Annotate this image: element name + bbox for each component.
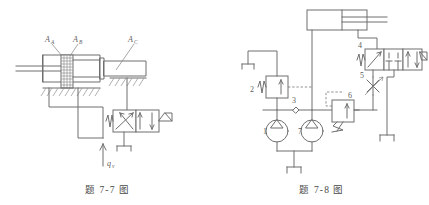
label-flow-subscript: v: [112, 163, 115, 169]
label-unloading-valve-6: 6: [348, 91, 352, 100]
label-flow-qv: q v: [107, 159, 115, 169]
label-area-a: A A: [44, 35, 55, 45]
supply-flow-arrow: [100, 144, 106, 166]
label-directional-valve-4: 4: [358, 41, 362, 50]
piston-rod: [16, 66, 62, 71]
directional-valve-4: [365, 49, 422, 70]
pump-1: [266, 110, 288, 151]
figure-page: A A A B A C q v 题 7-7 图: [0, 0, 429, 205]
figure-7-7-caption: 题 7-7 图: [0, 182, 215, 196]
figure-7-8: 1 2 3 4 5 6 7 题 7-8 图: [215, 0, 429, 205]
label-relief-valve-2: 2: [250, 85, 254, 94]
label-flow-text: q: [107, 159, 111, 168]
hydraulic-cylinder: [307, 10, 387, 30]
figure-7-8-caption: 题 7-8 图: [215, 182, 429, 196]
valve-lever: [159, 113, 172, 121]
valve-tank-line: [117, 132, 131, 151]
relief-valve-2: [258, 76, 312, 98]
figure-7-7: A A A B A C q v 题 7-7 图: [0, 0, 215, 205]
valve-spring: [106, 115, 113, 127]
piston-seal-pack: [61, 55, 73, 88]
ground-hatching: [41, 88, 100, 96]
label-check-valve-3: 3: [292, 96, 296, 105]
reservoir-relief: [242, 51, 277, 76]
label-area-b-subscript: B: [79, 39, 83, 45]
reservoir-main: [277, 151, 312, 173]
label-area-a-subscript: A: [50, 39, 55, 45]
label-area-b-text: A: [72, 35, 78, 44]
label-pump-1: 1: [263, 127, 267, 136]
label-area-a-text: A: [44, 35, 50, 44]
throttle-valve-5: [365, 70, 383, 110]
label-area-c-subscript: C: [134, 39, 138, 45]
check-valve-3: [293, 107, 299, 113]
directional-valve-4-spring: [357, 54, 365, 66]
label-area-c-text: A: [127, 35, 133, 44]
label-area-c: A C: [127, 35, 138, 45]
directional-valve: [113, 110, 159, 132]
label-throttle-valve-5: 5: [360, 71, 364, 80]
pump-7: [301, 110, 323, 151]
label-area-b: A B: [72, 35, 83, 45]
label-pump-7: 7: [298, 127, 302, 136]
